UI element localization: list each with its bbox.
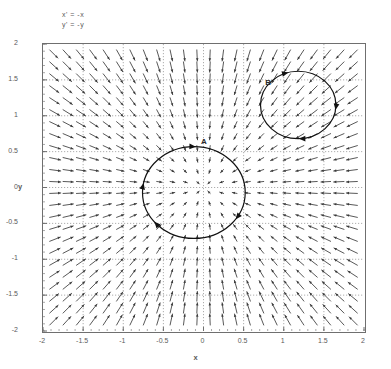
y-tick-label: -2 <box>0 326 18 333</box>
trajectory-label-b: B <box>265 78 271 87</box>
y-tick-label: 1 <box>0 111 18 118</box>
x-axis-label: x <box>0 353 391 362</box>
trajectory-layer <box>43 44 365 332</box>
x-tick-label: 2 <box>348 337 378 344</box>
equation-ydot: y' = -y <box>62 20 84 30</box>
trajectory-label-a: A <box>201 137 207 146</box>
plot-frame <box>42 43 366 333</box>
x-tick-label: -1.5 <box>67 337 97 344</box>
phase-portrait-figure: x' = -x y' = -y 21.510.50-0.5-1-1.5-2 -2… <box>0 0 391 369</box>
x-tick-label: -0.5 <box>147 337 177 344</box>
y-tick-label: 0.5 <box>0 147 18 154</box>
equation-xdot: x' = -x <box>62 10 84 20</box>
x-tick-label: -2 <box>27 337 57 344</box>
y-tick-label: 1.5 <box>0 75 18 82</box>
y-tick-label: 0 <box>0 183 18 190</box>
x-tick-label: 0.5 <box>228 337 258 344</box>
y-tick-label: -1.5 <box>0 290 18 297</box>
x-tick-label: 1.5 <box>308 337 338 344</box>
x-tick-label: 0 <box>188 337 218 344</box>
system-equations: x' = -x y' = -y <box>62 10 84 30</box>
y-tick-label: -0.5 <box>0 218 18 225</box>
x-tick-label: -1 <box>107 337 137 344</box>
y-axis-label: y <box>18 182 22 191</box>
y-tick-label: 2 <box>0 39 18 46</box>
y-tick-label: -1 <box>0 254 18 261</box>
x-tick-label: 1 <box>268 337 298 344</box>
